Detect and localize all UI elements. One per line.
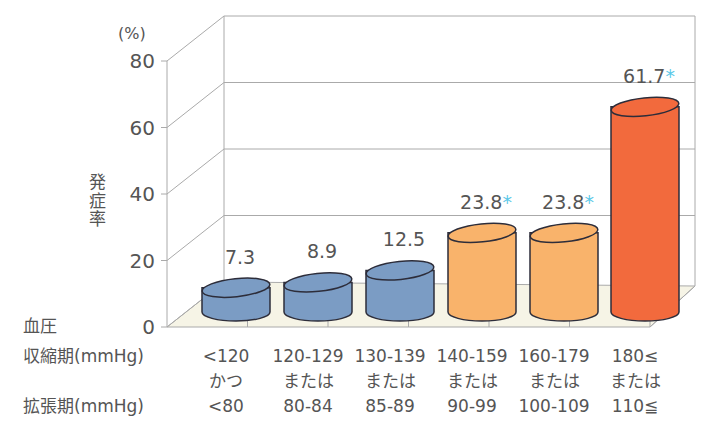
bar-value-label: 61.7* — [604, 67, 694, 86]
bar-cylinder — [283, 270, 353, 321]
bar-value-label: 8.9 — [277, 242, 367, 261]
bar-value-label: 12.5 — [359, 230, 449, 249]
side-grid-line — [167, 16, 224, 61]
x-category-systolic: 120-129 — [263, 348, 353, 365]
y-axis-title: 発症率 — [88, 173, 106, 229]
x-category-connector: または — [427, 373, 517, 390]
row-label-diastolic: 拡張期(mmHg) — [23, 398, 144, 415]
bar-cylinder — [529, 220, 599, 321]
x-category-diastolic: <80 — [181, 398, 271, 415]
significance-star: * — [584, 191, 594, 213]
x-category-diastolic: 90-99 — [427, 398, 517, 415]
bar-cylinder — [610, 94, 680, 321]
bar-value-label: 23.8* — [441, 193, 531, 212]
y-tick-label: 80 — [115, 51, 155, 71]
x-category-connector: または — [509, 373, 599, 390]
x-category-connector: または — [263, 373, 353, 390]
y-unit-label: (%) — [118, 24, 146, 43]
row-label-systolic: 収縮期(mmHg) — [23, 348, 144, 365]
x-category-systolic: <120 — [181, 348, 271, 365]
y-axis-title-text: 発症率 — [89, 172, 106, 229]
significance-star: * — [502, 191, 512, 213]
y-tick-label: 20 — [115, 251, 155, 271]
x-category-systolic: 160-179 — [509, 348, 599, 365]
y-tick-label: 40 — [115, 184, 155, 204]
bar-cylinder — [201, 275, 271, 321]
bar-cylinder — [365, 258, 435, 321]
bar-cylinder — [447, 220, 517, 321]
row-label-blood-pressure: 血圧 — [23, 318, 57, 335]
significance-star: * — [665, 65, 675, 87]
x-category-diastolic: 100-109 — [509, 398, 599, 415]
x-category-systolic: 180≤ — [590, 348, 680, 365]
y-tick-label: 60 — [115, 118, 155, 138]
x-category-diastolic: 80-84 — [263, 398, 353, 415]
bar-value-label: 23.8* — [523, 193, 613, 212]
side-grid-line — [167, 149, 224, 194]
x-category-connector: または — [590, 373, 680, 390]
x-category-systolic: 140-159 — [427, 348, 517, 365]
side-grid-line — [167, 83, 224, 128]
x-category-connector: または — [345, 373, 435, 390]
x-category-diastolic: 85-89 — [345, 398, 435, 415]
x-category-diastolic: 110≦ — [590, 398, 680, 415]
chart-plot-area — [0, 0, 725, 433]
x-category-connector: かつ — [181, 373, 271, 390]
bar-value-label: 7.3 — [195, 248, 285, 267]
y-tick-label: 0 — [115, 317, 155, 337]
x-category-systolic: 130-139 — [345, 348, 435, 365]
